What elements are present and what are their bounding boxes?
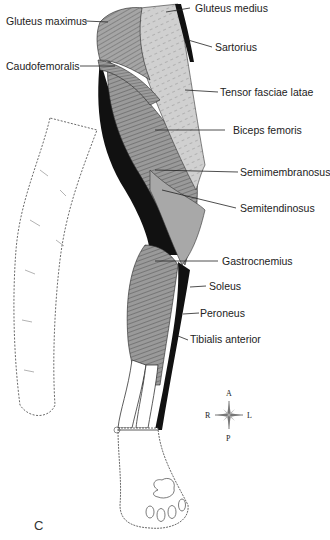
label-semimembranosus: Semimembranosus <box>240 166 330 178</box>
compass-posterior: P <box>226 433 230 445</box>
label-gluteus-maximus: Gluteus maximus <box>6 15 87 27</box>
compass-right: R <box>205 410 210 422</box>
label-semitendinosus: Semitendinosus <box>240 202 315 214</box>
hindlimb-diagram <box>0 0 330 540</box>
label-biceps-femoris: Biceps femoris <box>233 124 302 136</box>
tendons <box>118 360 158 428</box>
compass-left: L <box>247 410 252 422</box>
label-tensor-fasciae-latae: Tensor fasciae latae <box>220 86 313 98</box>
label-soleus: Soleus <box>209 280 241 292</box>
label-gastrocnemius: Gastrocnemius <box>222 255 293 267</box>
label-caudofemoralis: Caudofemoralis <box>6 60 80 72</box>
label-gluteus-medius: Gluteus medius <box>195 2 268 14</box>
label-sartorius: Sartorius <box>215 41 257 53</box>
label-tibialis-anterior: Tibialis anterior <box>190 333 261 345</box>
foot <box>114 427 188 528</box>
orientation-compass <box>215 401 243 429</box>
panel-letter: C <box>34 518 43 533</box>
label-peroneus: Peroneus <box>200 307 245 319</box>
compass-anterior: A <box>226 388 232 400</box>
tail <box>14 118 97 416</box>
